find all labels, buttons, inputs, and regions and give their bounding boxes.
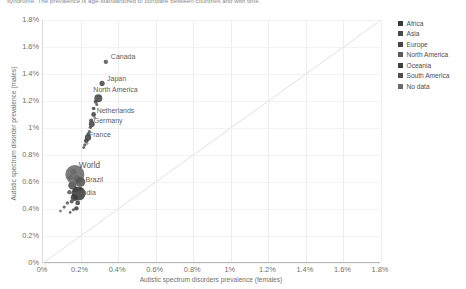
data-point[interactable] <box>72 208 75 211</box>
data-point[interactable] <box>82 146 85 149</box>
x-axis-tick-label: 0.8% <box>184 265 201 274</box>
y-axis-tick-label: 1% <box>1 123 39 132</box>
x-axis-tick-label: 0.6% <box>146 265 163 274</box>
data-points-layer <box>42 20 380 263</box>
data-point-north-america[interactable] <box>94 94 102 102</box>
data-point-canada[interactable] <box>104 60 108 64</box>
legend-swatch-icon <box>398 52 403 57</box>
x-axis-tick-label: 1.4% <box>296 265 313 274</box>
vertical-gridline <box>381 20 382 262</box>
data-point-india[interactable] <box>72 186 86 200</box>
legend-item-no-data[interactable]: No data <box>398 81 466 92</box>
data-point-netherlands[interactable] <box>91 112 96 117</box>
legend-swatch-icon <box>398 31 403 36</box>
data-point[interactable] <box>83 143 86 146</box>
legend-item-label: South America <box>407 72 450 79</box>
legend-item-oceania[interactable]: Oceania <box>398 60 466 71</box>
x-axis-tick-label: 1.2% <box>259 265 276 274</box>
data-point[interactable] <box>63 205 66 208</box>
data-point[interactable] <box>66 201 70 205</box>
legend-item-north-america[interactable]: North America <box>398 50 466 61</box>
legend: AfricaAsiaEuropeNorth AmericaOceaniaSout… <box>398 18 466 92</box>
legend-item-label: North America <box>407 51 449 58</box>
legend-item-label: Asia <box>407 30 420 37</box>
data-point-japan[interactable] <box>99 81 104 86</box>
legend-item-south-america[interactable]: South America <box>398 71 466 82</box>
y-axis-tick-labels: 0%0.2%0.4%0.6%0.8%1%1.2%1.4%1.6%1.8% <box>0 20 39 263</box>
data-point[interactable] <box>59 210 62 213</box>
y-axis-tick-label: 0.2% <box>1 231 39 240</box>
data-point[interactable] <box>75 201 80 206</box>
x-axis-title: Autistic spectrum disorders prevalence (… <box>42 276 380 283</box>
y-axis-tick-label: 1.4% <box>1 69 39 78</box>
x-axis-tick-label: 0% <box>37 265 48 274</box>
chart-subtitle: syndrome. The prevalence is age-standard… <box>7 0 407 5</box>
autism-prevalence-scatter-chart: syndrome. The prevalence is age-standard… <box>0 0 466 289</box>
x-axis-tick-label: 0.4% <box>109 265 126 274</box>
y-axis-tick-label: 1.2% <box>1 96 39 105</box>
data-point[interactable] <box>86 142 88 144</box>
y-axis-tick-label: 0% <box>1 258 39 267</box>
data-point[interactable] <box>92 107 96 111</box>
legend-swatch-icon <box>398 84 403 89</box>
legend-swatch-icon <box>398 21 403 26</box>
legend-item-label: No data <box>407 83 430 90</box>
x-axis-tick-label: 0.2% <box>71 265 88 274</box>
legend-item-asia[interactable]: Asia <box>398 29 466 40</box>
y-axis-tick-label: 0.4% <box>1 204 39 213</box>
legend-item-label: Africa <box>407 20 424 27</box>
legend-swatch-icon <box>398 42 403 47</box>
legend-item-europe[interactable]: Europe <box>398 39 466 50</box>
legend-swatch-icon <box>398 63 403 68</box>
x-axis-tick-label: 1.8% <box>372 265 389 274</box>
y-axis-tick-label: 0.8% <box>1 150 39 159</box>
data-point[interactable] <box>95 103 98 106</box>
y-axis-title: Autistic spectrum disorder prevalence (m… <box>10 59 17 209</box>
x-axis-tick-label: 1.6% <box>334 265 351 274</box>
y-axis-tick-label: 1.6% <box>1 42 39 51</box>
y-axis-tick-label: 0.6% <box>1 177 39 186</box>
x-axis-tick-label: 1% <box>224 265 235 274</box>
data-point[interactable] <box>70 200 74 204</box>
legend-item-label: Oceania <box>407 62 432 69</box>
legend-item-label: Europe <box>407 41 428 48</box>
data-point[interactable] <box>67 190 71 194</box>
legend-swatch-icon <box>398 73 403 78</box>
data-point-brazil[interactable] <box>76 177 86 187</box>
data-point-france[interactable] <box>85 134 91 140</box>
y-axis-tick-label: 1.8% <box>1 15 39 24</box>
data-point[interactable] <box>69 211 72 214</box>
legend-item-africa[interactable]: Africa <box>398 18 466 29</box>
data-point-germany[interactable] <box>89 121 95 127</box>
